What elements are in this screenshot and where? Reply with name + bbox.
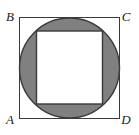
vertex-label-d: D <box>120 112 131 127</box>
vertex-label-a: A <box>5 112 14 127</box>
vertex-label-b: B <box>6 9 14 24</box>
geometry-figure: B C A D <box>0 0 139 135</box>
figure-canvas: B C A D <box>0 0 139 135</box>
vertex-label-c: C <box>122 9 131 24</box>
inner-square <box>37 31 103 104</box>
